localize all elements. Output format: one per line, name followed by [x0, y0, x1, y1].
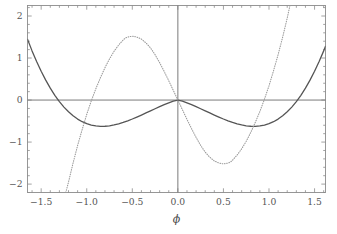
x-tick-label: 1.0 [262, 196, 277, 207]
y-tick-label: 1 [17, 52, 23, 63]
x-tick-label: −1.5 [30, 196, 52, 207]
chart-container: −1.5−1.0−0.50.00.51.01.5−2−1012ϕ [0, 0, 337, 234]
plot-svg: −1.5−1.0−0.50.00.51.01.5−2−1012ϕ [0, 0, 337, 234]
x-tick-label: 0.5 [216, 196, 231, 207]
y-tick-label: −2 [9, 178, 23, 189]
y-tick-label: 0 [17, 94, 23, 105]
x-tick-label: 1.5 [307, 196, 322, 207]
y-tick-label: 2 [17, 10, 23, 21]
y-tick-label: −1 [9, 136, 23, 147]
x-tick-label: −0.5 [121, 196, 143, 207]
x-tick-label: 0.0 [171, 196, 186, 207]
x-tick-label: −1.0 [76, 196, 98, 207]
x-axis-title: ϕ [173, 213, 181, 226]
